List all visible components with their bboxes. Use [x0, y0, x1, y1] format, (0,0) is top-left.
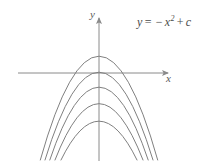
- equation-label: y=−x2+c: [137, 15, 191, 30]
- x-axis-label: x: [166, 72, 171, 84]
- equation-minus-sign: −: [156, 15, 163, 29]
- y-axis-label: y: [90, 8, 95, 20]
- parabola-family-figure: y x y=−x2+c: [0, 0, 212, 161]
- equation-equals-sign: =: [145, 15, 152, 29]
- equation-plus-sign: +: [177, 15, 184, 29]
- equation-exponent: 2: [170, 14, 174, 23]
- equation-y-term: y: [137, 15, 143, 29]
- equation-c-term: c: [186, 15, 192, 29]
